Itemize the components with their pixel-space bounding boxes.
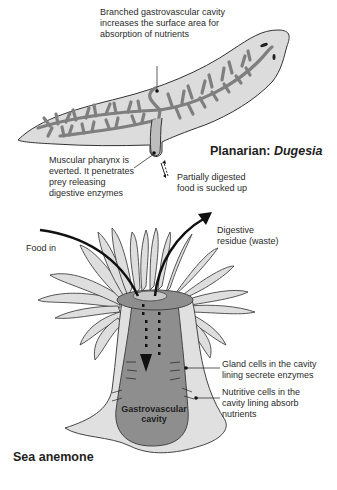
label-waste: Digestive residue (waste) [217, 225, 279, 247]
planarian-title-prefix: Planarian: [210, 144, 274, 158]
planarian-title: Planarian: Dugesia [210, 144, 323, 158]
label-food-in: Food in [26, 243, 56, 254]
label-pharynx: Muscular pharynx is everted. It penetrat… [49, 155, 134, 199]
eyespot-icon [273, 54, 276, 60]
label-sucked-up: Partially digested food is sucked up [177, 172, 247, 194]
label-gastrovascular-cavity: Gastrovascular cavity [118, 404, 190, 424]
label-nutritive-cells: Nutritive cells in the cavity lining abs… [222, 387, 300, 420]
planarian-title-genus: Dugesia [274, 144, 323, 158]
label-gland-cells: Gland cells in the cavity lining secrete… [222, 359, 317, 381]
mouth [133, 291, 167, 301]
label-branched-cavity: Branched gastrovascular cavity increases… [100, 7, 225, 40]
sea-anemone-title: Sea anemone [13, 450, 94, 464]
pharynx [150, 118, 162, 156]
